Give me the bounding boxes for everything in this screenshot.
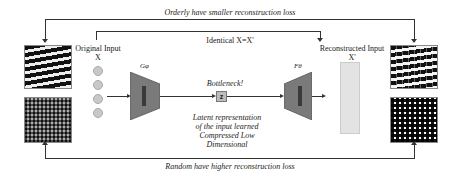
identity-label: Identical X=X'	[180, 36, 280, 45]
encoder-block	[130, 72, 160, 120]
top-loop-line-right-down	[414, 19, 415, 41]
input-title: Original Input	[70, 44, 126, 53]
latent-description-line: Dimensional	[180, 140, 274, 149]
identity-line-left-down	[96, 31, 97, 40]
input-node	[93, 66, 103, 76]
original-orderly-image	[24, 45, 72, 89]
encoder-to-latent-line	[160, 96, 214, 97]
arrow-right-icon	[322, 94, 326, 98]
reconstructed-output-bar	[340, 62, 360, 134]
identity-line-horizontal	[96, 31, 321, 32]
input-node	[93, 94, 103, 104]
input-to-encoder-line	[107, 96, 129, 97]
bottom-loop-label: Random have higher reconstruction loss	[140, 162, 320, 171]
top-loop-line-horizontal	[45, 19, 415, 20]
bottleneck-label: Bottleneck!	[190, 79, 260, 88]
reconstructed-orderly-image	[390, 45, 438, 89]
arrow-up-icon	[42, 141, 48, 145]
original-random-image	[24, 97, 72, 143]
bottom-loop-line-left-up	[45, 144, 46, 158]
input-node	[93, 80, 103, 90]
arrow-up-icon	[411, 141, 417, 145]
arrow-down-icon	[317, 38, 323, 42]
output-symbol: X'	[330, 53, 374, 62]
top-loop-line-left-down	[45, 19, 46, 41]
latent-description-line: Latent representation	[180, 113, 274, 122]
latent-node: z	[216, 91, 227, 102]
output-title: Reconstructed Input	[312, 44, 392, 53]
decoder-symbol: Fθ	[294, 62, 302, 70]
decoder-block	[284, 72, 312, 120]
bottom-loop-line-right-up	[414, 144, 415, 158]
latent-description-line: of the input learned	[180, 122, 274, 131]
arrow-down-icon	[42, 39, 48, 43]
arrow-down-icon	[411, 39, 417, 43]
latent-description-line: Compressed Low	[180, 131, 274, 140]
reconstructed-random-image	[390, 97, 438, 143]
input-node	[93, 108, 103, 118]
latent-to-decoder-line	[227, 96, 282, 97]
encoder-symbol: Gφ	[140, 62, 149, 70]
input-symbol: X	[70, 53, 126, 62]
bottom-loop-line-horizontal	[45, 158, 415, 159]
top-loop-label: Orderly have smaller reconstruction loss	[140, 8, 320, 17]
